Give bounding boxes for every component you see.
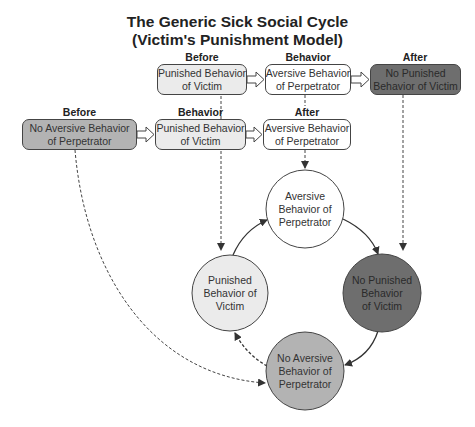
node-text: Victim bbox=[216, 300, 244, 313]
node-text: of Victim bbox=[362, 300, 402, 313]
node-text: Punished bbox=[208, 274, 252, 287]
box-text: of Perpetrator bbox=[276, 80, 340, 93]
top-row-box-behavior: Aversive Behavior of Perpetrator bbox=[265, 64, 351, 95]
block-arrow-top-2 bbox=[351, 72, 369, 87]
top-row-header-after: After bbox=[370, 51, 460, 63]
top-row-header-behavior: Behavior bbox=[265, 51, 351, 63]
box-text: Aversive Behavior bbox=[266, 67, 350, 80]
node-text: Behavior of bbox=[278, 203, 331, 216]
cycle-node-top-label: Aversive Behavior of Perpetrator bbox=[266, 170, 344, 248]
cycle-node-right-label: No Punished Behavior of Victim bbox=[343, 254, 421, 332]
node-text: Behavior of bbox=[278, 365, 331, 378]
block-arrow-row2-1 bbox=[137, 127, 154, 142]
row2-header-before: Before bbox=[22, 106, 137, 118]
box-text: of Victim bbox=[180, 135, 220, 148]
box-text: No Aversive Behavior bbox=[29, 122, 129, 135]
block-arrow-top-1 bbox=[247, 72, 264, 87]
node-text: No Punished bbox=[352, 274, 412, 287]
box-text: of Perpetrator bbox=[47, 135, 111, 148]
block-arrow-row2-2 bbox=[246, 127, 262, 142]
diagram-title-line1: The Generic Sick Social Cycle bbox=[0, 13, 475, 30]
node-text: Behavior bbox=[361, 287, 402, 300]
top-row-header-before: Before bbox=[157, 51, 247, 63]
row2-header-behavior: Behavior bbox=[155, 106, 246, 118]
box-text: Aversive Behavior bbox=[265, 122, 349, 135]
box-text: No Punished bbox=[385, 67, 445, 80]
diagram-title-line2: (Victim's Punishment Model) bbox=[0, 31, 475, 48]
row2-box-after: Aversive Behavior of Perpetrator bbox=[263, 119, 351, 150]
node-text: Aversive bbox=[285, 190, 325, 203]
cycle-node-left-label: Punished Behavior of Victim bbox=[192, 254, 268, 332]
node-text: Behavior of bbox=[203, 287, 256, 300]
cycle-node-bottom-label: No Aversive Behavior of Perpetrator bbox=[266, 332, 344, 410]
cycle-arrow-right-to-bottom bbox=[345, 331, 378, 365]
box-text: Punished Behavior bbox=[158, 67, 246, 80]
node-text: Perpetrator bbox=[279, 216, 332, 229]
node-text: Perpetrator bbox=[279, 378, 332, 391]
cycle-arrow-bottom-to-left bbox=[235, 333, 267, 366]
box-text: Punished Behavior bbox=[156, 122, 244, 135]
cycle-arrow-top-to-right bbox=[343, 219, 378, 254]
row2-header-after: After bbox=[263, 106, 351, 118]
row2-box-before: No Aversive Behavior of Perpetrator bbox=[22, 119, 137, 150]
cycle-arrow-left-to-top bbox=[233, 220, 267, 255]
top-row-box-after: No Punished Behavior of Victim bbox=[370, 64, 461, 95]
row2-box-behavior: Punished Behavior of Victim bbox=[155, 119, 246, 150]
box-text: of Victim bbox=[182, 80, 222, 93]
box-text: of Perpetrator bbox=[275, 135, 339, 148]
box-text: Behavior of Victim bbox=[373, 80, 457, 93]
top-row-box-before: Punished Behavior of Victim bbox=[157, 64, 247, 95]
node-text: No Aversive bbox=[277, 352, 333, 365]
